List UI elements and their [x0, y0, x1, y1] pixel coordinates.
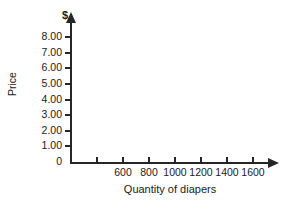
x-axis-tick [96, 157, 98, 162]
y-axis-tick-label: 4.00 [0, 94, 62, 105]
y-axis-currency-symbol: $ [56, 9, 68, 21]
x-axis-arrow-icon [268, 158, 279, 168]
y-axis-tick-label: 6.00 [0, 62, 62, 73]
x-axis-tick [148, 157, 150, 162]
x-axis-title: Quantity of diapers [70, 183, 270, 196]
y-axis-tick [65, 83, 70, 85]
price-quantity-chart: $ Price Quantity of diapers 0 1.002.003.… [0, 0, 290, 210]
x-axis-tick-label: 1600 [241, 166, 264, 178]
x-axis-tick [226, 157, 228, 162]
x-axis-tick-label: 1000 [163, 166, 186, 178]
y-axis-tick-label: 1.00 [0, 140, 62, 151]
x-axis-tick-label: 1200 [189, 166, 212, 178]
x-axis-tick-label: 800 [140, 166, 158, 178]
y-axis-tick-label: 3.00 [0, 109, 62, 120]
x-axis-tick [174, 157, 176, 162]
x-axis-tick [122, 157, 124, 162]
x-axis-tick [200, 157, 202, 162]
y-axis-tick [65, 67, 70, 69]
x-axis-tick-label: 600 [114, 166, 132, 178]
y-axis-tick [65, 99, 70, 101]
x-axis-tick [252, 157, 254, 162]
y-axis-tick [65, 52, 70, 54]
x-axis-line [70, 162, 270, 164]
y-axis-tick [65, 145, 70, 147]
origin-tick-label: 0 [0, 156, 62, 167]
y-axis-tick [65, 36, 70, 38]
plot-area [72, 22, 268, 162]
y-axis-tick-label: 2.00 [0, 125, 62, 136]
y-axis-tick-label: 5.00 [0, 78, 62, 89]
y-axis-line [70, 22, 72, 164]
y-axis-tick [65, 130, 70, 132]
x-axis-tick-label: 1400 [215, 166, 238, 178]
y-axis-tick [65, 114, 70, 116]
y-axis-tick-label: 7.00 [0, 47, 62, 58]
y-axis-tick-label: 8.00 [0, 31, 62, 42]
